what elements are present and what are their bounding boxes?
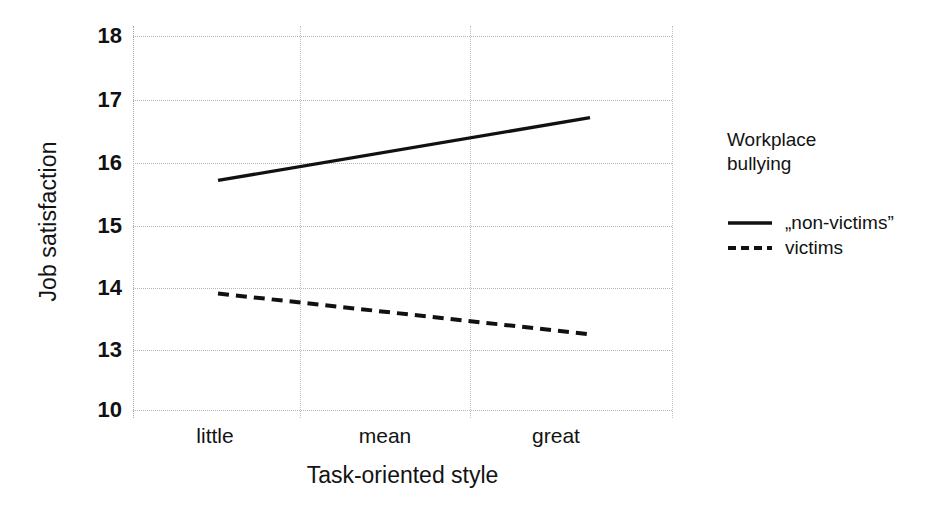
y-tick-label-14: 14 [82, 277, 122, 299]
y-tick-label-18: 18 [82, 25, 122, 47]
legend-item-victims: victims [727, 236, 927, 261]
y-axis-title: Job satisfaction [35, 92, 62, 352]
y-tick-label-16: 16 [82, 152, 122, 174]
legend-swatch-solid-line-icon [727, 217, 773, 229]
series-line-non-victims [218, 118, 590, 181]
y-axis-tick-labels: 18 17 16 15 14 13 10 [78, 0, 122, 515]
y-tick-label-10: 10 [82, 399, 122, 421]
interaction-plot-figure: Job satisfaction 18 17 16 15 14 13 10 li… [0, 0, 937, 515]
y-tick-label-15: 15 [82, 215, 122, 237]
legend-title-line-1: Workplace [727, 128, 927, 152]
legend-entries: „non-victims” victims [727, 211, 927, 261]
x-tick-label-great: great [496, 424, 616, 448]
legend-title-line-2: bullying [727, 152, 927, 176]
legend-label-victims: victims [785, 237, 843, 259]
x-tick-divider-3 [672, 26, 673, 418]
x-tick-label-mean: mean [325, 424, 445, 448]
legend-item-non-victims: „non-victims” [727, 211, 927, 236]
series-line-victims [218, 293, 590, 334]
y-tick-label-13: 13 [82, 339, 122, 361]
legend-label-non-victims: „non-victims” [785, 212, 894, 234]
gridline-10 [133, 410, 672, 411]
series-lines [133, 36, 672, 410]
plot-area [133, 36, 672, 410]
y-tick-label-17: 17 [82, 89, 122, 111]
x-tick-label-little: little [155, 424, 275, 448]
legend-swatch-dashed-line-icon [727, 242, 773, 254]
legend-title: Workplace bullying [727, 128, 927, 177]
legend: Workplace bullying „non-victims” victims [727, 128, 927, 261]
x-axis-title: Task-oriented style [133, 462, 672, 489]
